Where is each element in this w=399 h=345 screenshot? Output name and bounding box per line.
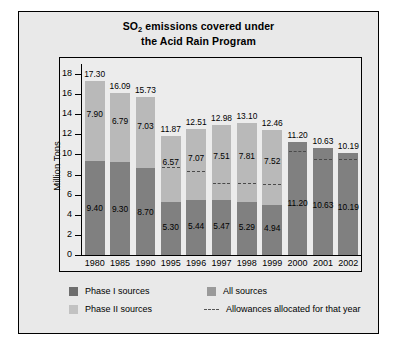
x-tick-label: 1985 <box>107 258 132 268</box>
y-tick: 0 <box>75 255 81 256</box>
bar[interactable] <box>237 123 257 255</box>
bar[interactable] <box>262 130 282 255</box>
bar-segment-phase-2 <box>186 129 206 200</box>
bar-group[interactable]: 12.517.075.44 <box>186 64 206 255</box>
bar-lower-label: 5.44 <box>188 222 204 231</box>
phase-1-swatch-icon <box>69 287 78 296</box>
y-tick-label: 10 <box>62 148 72 158</box>
x-tick-label: 1999 <box>260 258 285 268</box>
y-tick: 12 <box>75 134 81 135</box>
bar-upper-label: 6.79 <box>112 117 128 126</box>
y-tick: 18 <box>75 74 81 75</box>
y-tick: 6 <box>75 195 81 196</box>
bar-group[interactable]: 11.2011.20 <box>288 64 308 255</box>
bar[interactable] <box>161 136 181 255</box>
y-tick-label: 12 <box>62 128 72 138</box>
bar-upper-label: 7.51 <box>213 152 229 161</box>
bar-lower-label: 11.20 <box>287 199 307 208</box>
legend-item-phase-1: Phase I sources <box>69 286 150 296</box>
y-tick-label: 18 <box>62 68 72 78</box>
bar-total-label: 13.10 <box>236 112 257 121</box>
bar-total-label: 11.87 <box>161 125 181 134</box>
allowance-line <box>213 183 231 184</box>
bar-upper-label: 7.90 <box>87 110 103 119</box>
allowance-line <box>263 184 281 185</box>
bar-group[interactable]: 10.6310.63 <box>313 64 333 255</box>
x-tick-label: 1996 <box>183 258 208 268</box>
chart-legend: Phase I sources All sources Phase II sou… <box>59 284 362 320</box>
bar-group[interactable]: 12.987.515.47 <box>212 64 232 255</box>
bar-total-label: 12.98 <box>211 114 232 123</box>
legend-label-phase-2: Phase II sources <box>85 304 152 314</box>
y-tick: 16 <box>75 94 81 95</box>
allowance-line <box>339 159 357 160</box>
legend-item-all-sources: All sources <box>207 286 267 296</box>
bar-lower-label: 8.70 <box>137 208 153 217</box>
legend-item-allowances: Allowances allocated for that year <box>204 304 361 314</box>
bar[interactable] <box>186 129 206 255</box>
bar-lower-label: 10.63 <box>312 201 333 210</box>
bar-total-label: 12.51 <box>186 118 207 127</box>
bars-container: 17.307.909.4016.096.799.3015.737.038.701… <box>82 64 361 255</box>
bar-group[interactable]: 16.096.799.30 <box>110 64 130 255</box>
bar-lower-label: 9.30 <box>112 205 128 214</box>
bar-group[interactable]: 13.107.815.29 <box>237 64 257 255</box>
x-tick-label: 2001 <box>310 258 335 268</box>
bar-group[interactable]: 15.737.038.70 <box>136 64 156 255</box>
dashed-line-key-icon <box>204 309 219 310</box>
bar-total-label: 11.20 <box>287 131 307 140</box>
x-axis-line <box>81 255 361 256</box>
bar[interactable] <box>85 81 105 255</box>
x-tick-label: 1995 <box>158 258 183 268</box>
y-tick-label: 14 <box>62 108 72 118</box>
y-tick-label: 4 <box>67 209 72 219</box>
allowance-line <box>289 151 307 152</box>
bar-total-label: 10.19 <box>338 142 359 151</box>
y-tick-label: 6 <box>67 189 72 199</box>
bar-total-label: 16.09 <box>110 82 131 91</box>
chart-figure: SO2 emissions covered under the Acid Rai… <box>18 11 379 334</box>
bar-lower-label: 10.19 <box>338 203 359 212</box>
bar-upper-label: 7.81 <box>239 152 255 161</box>
bar-upper-label: 7.07 <box>188 154 204 163</box>
y-tick: 8 <box>75 175 81 176</box>
x-tick-label: 1990 <box>133 258 158 268</box>
x-tick-label: 1997 <box>209 258 234 268</box>
bar-total-label: 15.73 <box>135 86 156 95</box>
all-sources-swatch-icon <box>207 287 216 296</box>
x-tick-label: 1998 <box>234 258 259 268</box>
bar-segment-phase-2 <box>237 123 257 202</box>
bar-upper-label: 7.52 <box>264 157 280 166</box>
bar-group[interactable]: 17.307.909.40 <box>85 64 105 255</box>
y-tick-label: 0 <box>67 249 72 259</box>
y-tick: 10 <box>75 154 81 155</box>
bar-total-label: 12.46 <box>262 119 283 128</box>
y-tick: 4 <box>75 215 81 216</box>
bar-group[interactable]: 12.467.524.94 <box>262 64 282 255</box>
phase-2-swatch-icon <box>69 305 78 314</box>
legend-item-phase-2: Phase II sources <box>69 304 152 314</box>
axis-area: Million Tons 024681012141618 17.307.909.… <box>60 58 361 271</box>
y-axis-label: Million Tons <box>51 141 62 190</box>
y-tick-label: 2 <box>67 229 72 239</box>
bar-lower-label: 5.29 <box>239 223 255 232</box>
bar-total-label: 17.30 <box>84 70 105 79</box>
bar-lower-label: 5.47 <box>213 222 229 231</box>
bar-lower-label: 5.30 <box>163 223 179 232</box>
x-tick-label: 2002 <box>336 258 361 268</box>
y-tick: 2 <box>75 235 81 236</box>
subscript-2: 2 <box>138 25 142 34</box>
x-tick-label: 1980 <box>82 258 107 268</box>
bar-segment-phase-2 <box>161 136 181 202</box>
bar-total-label: 10.63 <box>312 137 333 146</box>
bar[interactable] <box>212 125 232 255</box>
bar-segment-phase-2 <box>262 130 282 206</box>
chart-title: SO2 emissions covered under the Acid Rai… <box>19 20 378 47</box>
bar-upper-label: 6.57 <box>163 158 179 167</box>
allowance-line <box>238 183 256 184</box>
bar-group[interactable]: 11.876.575.30 <box>161 64 181 255</box>
bar-segment-phase-2 <box>136 97 156 168</box>
y-tick-label: 16 <box>62 88 72 98</box>
bar-segment-phase-2 <box>85 81 105 160</box>
bar-group[interactable]: 10.1910.19 <box>338 64 358 255</box>
